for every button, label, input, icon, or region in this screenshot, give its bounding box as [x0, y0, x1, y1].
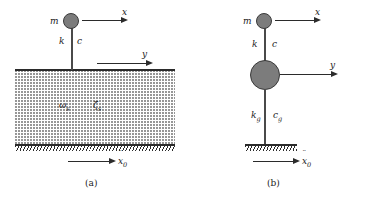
x-arrow-head-b	[314, 17, 321, 23]
ground-spring-label: kg	[251, 111, 261, 122]
figure-root: m x k c y ωs ζs x0 (a) m	[0, 0, 372, 197]
ground-dashpot-subscript: g	[278, 115, 282, 123]
mass-label-a: m	[50, 17, 59, 26]
base-accel-symbol-b: x	[302, 157, 307, 166]
base-accel-label-b: x0	[302, 157, 311, 168]
x-arrow-line-a	[82, 20, 122, 21]
y-arrow-head-b	[331, 71, 338, 77]
soil-damping-subscript: s	[98, 105, 101, 113]
base-accel-arrow-head-b	[293, 158, 300, 164]
base-accel-arrow-line-a	[68, 161, 110, 162]
x-arrow-head-a	[121, 17, 128, 23]
spring-label-b: k	[252, 40, 257, 49]
base-accel-subscript-a: 0	[123, 161, 127, 169]
soil-surface-line	[15, 69, 175, 71]
spring-label-a: k	[59, 37, 64, 46]
panel-a: m x k c y ωs ζs x0 (a)	[0, 0, 186, 197]
x-arrow-label-b: x	[315, 8, 320, 17]
structure-mass-b	[256, 13, 272, 29]
x-arrow-line-b	[275, 20, 315, 21]
bedrock-hatch-b	[245, 146, 297, 151]
ground-dashpot-label: cg	[273, 111, 282, 122]
soil-frequency-subscript: s	[66, 105, 69, 113]
x-arrow-label-a: x	[122, 8, 127, 17]
structure-mass-a	[63, 13, 79, 29]
bedrock-hatch-a	[15, 146, 175, 151]
y-arrow-label-b: y	[330, 61, 335, 70]
base-accel-subscript-b: 0	[307, 161, 311, 169]
caption-b: (b)	[267, 178, 280, 188]
structure-column-a	[71, 28, 73, 70]
y-arrow-line-b	[280, 74, 332, 75]
base-accel-arrow-head-a	[109, 158, 116, 164]
soil-frequency-label: ωs	[59, 101, 70, 112]
y-arrow-label-a: y	[142, 50, 147, 59]
ground-spring-subscript: g	[256, 115, 260, 123]
base-accel-label-a: x0	[118, 157, 127, 168]
y-arrow-line-a	[97, 63, 147, 64]
panel-b: m x k c y kg cg x0 (b)	[186, 0, 372, 197]
caption-a: (a)	[85, 178, 97, 188]
foundation-column-b	[264, 89, 266, 145]
soil-damping-label: ζs	[93, 101, 101, 112]
mass-label-b: m	[243, 17, 252, 26]
base-accel-symbol-a: x	[118, 157, 123, 166]
foundation-mass-b	[250, 60, 280, 90]
base-accel-arrow-line-b	[253, 161, 294, 162]
dashpot-label-a: c	[77, 37, 82, 46]
dashpot-label-b: c	[272, 40, 277, 49]
y-arrow-head-a	[146, 60, 153, 66]
